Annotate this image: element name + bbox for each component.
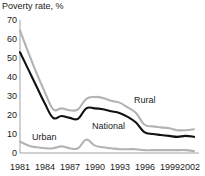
series-line-urban <box>20 140 194 151</box>
series-paths <box>20 30 194 151</box>
series-line-rural <box>20 30 194 130</box>
poverty-rate-line-chart: Poverty rate, % 70 60 50 40 30 20 10 0 1… <box>0 0 205 176</box>
axis-lines <box>20 20 199 153</box>
plot-area <box>0 0 205 176</box>
